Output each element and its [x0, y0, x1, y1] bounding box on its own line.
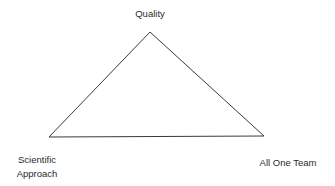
triangle-shape — [49, 32, 264, 137]
vertex-label-line1: Scientific — [6, 153, 68, 167]
vertex-label-all-one-team: All One Team — [252, 156, 324, 170]
vertex-label-line2: Approach — [6, 167, 68, 181]
vertex-label-scientific-approach: Scientific Approach — [6, 153, 68, 181]
vertex-label-quality: Quality — [125, 7, 175, 21]
